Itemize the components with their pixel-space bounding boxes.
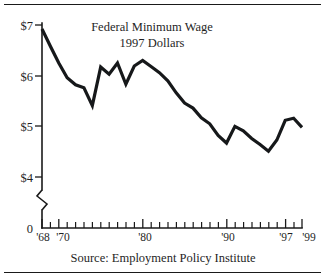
x-tick-label-1997: '97 (279, 231, 293, 243)
chart-subtitle: 1997 Dollars (120, 36, 185, 50)
y-tick-label-5: $5 (21, 120, 34, 134)
chart-title: Federal Minimum Wage (91, 20, 213, 34)
x-tick-label-1990: '90 (221, 231, 235, 243)
minimum-wage-line-chart: $7 $6 $5 $4 0 (0, 0, 325, 277)
x-tick-label-1980: '80 (138, 231, 152, 243)
y-tick-label-0: 0 (27, 222, 33, 236)
y-tick-label-6: $6 (21, 70, 34, 84)
x-tick-label-1999: '99 (302, 231, 316, 243)
x-tick-label-1968: '68 (36, 231, 50, 243)
x-tick-label-1970: '70 (56, 231, 70, 243)
y-tick-label-4: $4 (21, 171, 34, 185)
y-tick-label-7: $7 (21, 19, 34, 33)
chart-figure: $7 $6 $5 $4 0 (0, 0, 325, 277)
source-caption: Source: Employment Policy Institute (70, 251, 255, 265)
